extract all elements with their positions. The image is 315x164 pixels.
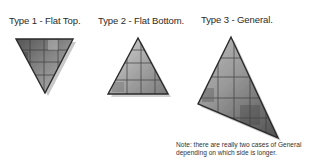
note-text: Note: there are really two cases of Gene… [176, 141, 301, 158]
triangle3-general [190, 30, 290, 145]
note-line-2: depending on which side is longer. [176, 149, 301, 157]
triangle-diagram [0, 0, 315, 164]
note-line-1: Note: there are really two cases of Gene… [176, 141, 301, 149]
triangle2-flat-bottom [100, 30, 180, 100]
